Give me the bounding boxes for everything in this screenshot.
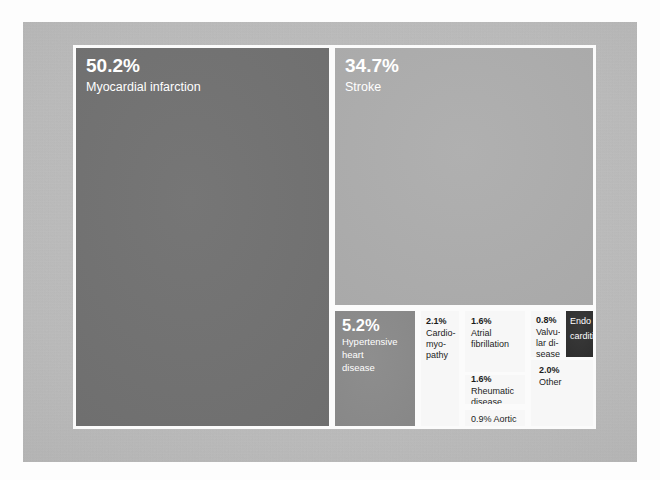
treemap-tile-rheumatic-disease[interactable]: 1.6% Rheumatic disease bbox=[462, 375, 528, 407]
treemap-tile-cardiomyopathy[interactable]: 2.1% Cardio- myo- pathy bbox=[418, 308, 462, 429]
tile-percent: 2.1% bbox=[421, 311, 459, 327]
tile-label-line3: sease bbox=[531, 348, 560, 359]
tile-label-line2: fibrillation bbox=[465, 338, 525, 349]
tile-label-line2: carditi bbox=[566, 326, 593, 341]
treemap-tile-stroke[interactable]: 34.7% Stroke bbox=[332, 45, 596, 308]
tile-label-line2: lar di- bbox=[531, 337, 560, 348]
tile-label-line1: Other bbox=[531, 376, 593, 387]
tile-percent: 50.2% bbox=[76, 48, 329, 77]
tile-percent: 0.8% bbox=[531, 311, 560, 326]
tile-label-line1: Valvu- bbox=[531, 326, 560, 337]
treemap-tile-other[interactable]: 2.0% Other bbox=[528, 360, 596, 429]
tile-label-line2: aneurysm bbox=[465, 425, 525, 429]
treemap-tile-atrial-fibrillation[interactable]: 1.6% Atrial fibrillation bbox=[462, 308, 528, 375]
tile-percent: 2.0% bbox=[531, 360, 593, 376]
treemap-tile-hypertensive-heart-disease[interactable]: 5.2% Hypertensive heart disease bbox=[332, 308, 418, 429]
tile-label-line2: heart bbox=[335, 348, 415, 361]
treemap-tile-valvular-disease[interactable]: 0.8% Valvu- lar di- sease bbox=[528, 308, 563, 360]
tile-label-line1: Atrial bbox=[465, 327, 525, 338]
screenshot-root: 50.2% Myocardial infarction 34.7% Stroke… bbox=[0, 0, 660, 480]
tile-label-line1: Endo bbox=[566, 311, 593, 326]
treemap-tile-endocarditis[interactable]: Endo carditi bbox=[563, 308, 596, 360]
tile-percent: 34.7% bbox=[335, 48, 593, 77]
tile-label-line2: disease bbox=[465, 396, 525, 407]
tile-label-line3: disease bbox=[335, 361, 415, 374]
tile-label-line3: pathy bbox=[421, 349, 459, 360]
tile-label-line1: Hypertensive bbox=[335, 335, 415, 348]
treemap-tile-aortic-aneurysm[interactable]: 0.9% Aortic aneurysm bbox=[462, 407, 528, 429]
treemap-tile-myocardial-infarction[interactable]: 50.2% Myocardial infarction bbox=[73, 45, 332, 429]
tile-label: Myocardial infarction bbox=[76, 77, 329, 94]
tile-label: Stroke bbox=[335, 77, 593, 94]
tile-label-line1: Rheumatic bbox=[465, 385, 525, 396]
tile-percent: 5.2% bbox=[335, 311, 415, 335]
tile-label-line1: Cardio- bbox=[421, 327, 459, 338]
tile-label-line1: 0.9% Aortic bbox=[465, 410, 525, 425]
tile-label-line2: myo- bbox=[421, 338, 459, 349]
tile-percent: 1.6% bbox=[465, 375, 525, 385]
tile-percent: 1.6% bbox=[465, 311, 525, 327]
treemap-chart: 50.2% Myocardial infarction 34.7% Stroke… bbox=[73, 45, 596, 429]
